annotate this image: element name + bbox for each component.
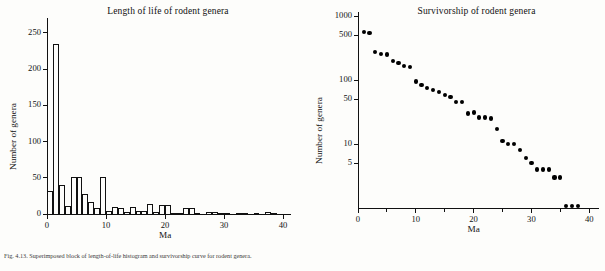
histogram-bar — [224, 213, 230, 214]
scatter-point — [373, 50, 377, 54]
histogram-bar — [100, 177, 106, 214]
scatter-point — [483, 115, 487, 119]
scatter-point — [466, 111, 470, 115]
right-x-tick — [415, 209, 416, 213]
scatter-point — [367, 31, 371, 35]
scatter-point — [385, 52, 389, 56]
left-x-tick — [224, 215, 225, 219]
right-y-tick — [354, 99, 358, 100]
right-x-tick-label: 40 — [575, 214, 603, 224]
scatter-point — [408, 65, 412, 69]
scatter-point — [552, 175, 556, 179]
scatter-point — [512, 142, 516, 146]
scatter-point — [391, 59, 395, 63]
left-y-tick-label: 250 — [11, 27, 41, 37]
left-y-tick — [43, 141, 47, 142]
left-y-tick-label: 50 — [11, 172, 41, 182]
scatter-point — [489, 116, 493, 120]
right-y-axis — [358, 12, 359, 208]
right-x-tick — [358, 209, 359, 213]
right-y-tick-label: 500 — [318, 29, 352, 39]
left-x-tick-label: 20 — [151, 220, 179, 230]
figure-container: Length of life of rodent genera 05010015… — [0, 0, 605, 271]
scatter-point — [500, 139, 504, 143]
histogram-bar — [271, 213, 277, 214]
scatter-point — [558, 175, 562, 179]
scatter-point — [414, 79, 418, 83]
chart-panel-survivorship: Survivorship of rodent genera 5105010050… — [300, 0, 605, 250]
scatter-point — [495, 127, 499, 131]
left-y-tick — [43, 105, 47, 106]
left-y-tick-label: 0 — [11, 208, 41, 218]
right-x-tick-label: 10 — [402, 214, 430, 224]
left-x-tick-label: 30 — [210, 220, 238, 230]
right-y-axis-label: Number of genera — [314, 97, 324, 164]
scatter-point — [425, 86, 429, 90]
left-x-axis-label: Ma — [159, 230, 171, 240]
scatter-point — [431, 88, 435, 92]
right-x-axis — [358, 208, 599, 209]
left-y-axis — [47, 18, 48, 214]
histogram-bar — [254, 213, 260, 214]
scatter-point — [379, 52, 383, 56]
right-y-tick — [354, 16, 358, 17]
right-x-tick-label: 0 — [344, 214, 372, 224]
chart-panel-length-of-life: Length of life of rodent genera 05010015… — [0, 0, 300, 250]
scatter-point — [547, 167, 551, 171]
right-x-tick-minor — [386, 209, 387, 212]
right-x-tick-label: 30 — [517, 214, 545, 224]
left-y-tick — [43, 177, 47, 178]
right-y-tick — [354, 35, 358, 36]
left-x-tick — [283, 215, 284, 219]
scatter-point — [529, 161, 533, 165]
scatter-point — [448, 95, 452, 99]
left-y-tick-label: 200 — [11, 63, 41, 73]
right-plot-area: 510501005001000010203040 — [300, 0, 605, 250]
right-x-tick — [531, 209, 532, 213]
right-y-tick-label: 1000 — [318, 10, 352, 20]
figure-caption: Fig. 4.13. Superimposed block of length-… — [4, 252, 602, 260]
scatter-point — [396, 61, 400, 65]
scatter-point — [472, 110, 476, 114]
left-y-tick — [43, 32, 47, 33]
scatter-point — [437, 90, 441, 94]
left-x-tick-label: 40 — [269, 220, 297, 230]
scatter-point — [419, 83, 423, 87]
right-x-tick-minor — [444, 209, 445, 212]
left-x-tick — [47, 215, 48, 219]
right-y-tick — [354, 144, 358, 145]
left-x-tick-label: 10 — [92, 220, 120, 230]
scatter-point — [443, 93, 447, 97]
right-x-axis-label: Ma — [468, 224, 480, 234]
left-x-tick — [165, 215, 166, 219]
right-x-tick — [589, 209, 590, 213]
right-x-tick-minor — [560, 209, 561, 212]
scatter-point — [570, 204, 574, 208]
scatter-point — [518, 148, 522, 152]
right-x-tick — [473, 209, 474, 213]
right-y-tick-label: 100 — [318, 74, 352, 84]
right-x-tick-label: 20 — [460, 214, 488, 224]
scatter-point — [362, 30, 366, 34]
scatter-point — [506, 142, 510, 146]
right-y-tick — [354, 163, 358, 164]
left-x-tick-label: 0 — [33, 220, 61, 230]
left-y-axis-label: Number of genera — [8, 103, 18, 170]
scatter-point — [454, 100, 458, 104]
scatter-point — [576, 204, 580, 208]
scatter-point — [477, 115, 481, 119]
histogram-bar — [195, 213, 201, 214]
scatter-point — [541, 167, 545, 171]
left-x-tick — [106, 215, 107, 219]
scatter-point — [535, 167, 539, 171]
right-x-tick-minor — [502, 209, 503, 212]
left-x-axis — [47, 214, 291, 215]
scatter-point — [524, 156, 528, 160]
left-y-tick — [43, 69, 47, 70]
scatter-point — [402, 64, 406, 68]
right-y-tick — [354, 80, 358, 81]
left-plot-area: 050100150200250010203040 — [0, 0, 300, 250]
scatter-point — [460, 100, 464, 104]
histogram-bar — [242, 213, 248, 214]
